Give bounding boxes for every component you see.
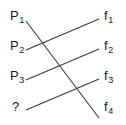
- node-sub-p1: 1: [19, 15, 24, 25]
- node-label-unknown: ?: [12, 100, 19, 113]
- node-label-p1: P1: [10, 9, 24, 22]
- node-label-f2: f2: [104, 39, 113, 52]
- node-sub-f3: 3: [108, 75, 113, 85]
- edge-p2-f1: [26, 19, 99, 50]
- node-label-f4: f4: [104, 100, 113, 113]
- node-base-p2: P: [10, 38, 19, 53]
- node-sub-p3: 3: [19, 75, 24, 85]
- node-label-f3: f3: [104, 69, 113, 82]
- node-sub-f1: 1: [108, 15, 113, 25]
- node-label-p3: P3: [10, 69, 24, 82]
- node-sub-f2: 2: [108, 45, 113, 55]
- edge-p1-f4: [26, 21, 99, 118]
- node-sub-p2: 2: [19, 45, 24, 55]
- node-sub-f4: 4: [108, 106, 113, 116]
- node-label-f1: f1: [104, 9, 113, 22]
- node-base-unknown: ?: [12, 99, 19, 114]
- node-base-p3: P: [10, 68, 19, 83]
- node-label-p2: P2: [10, 39, 24, 52]
- node-base-p1: P: [10, 8, 19, 23]
- edge-unknown-f3: [26, 79, 99, 110]
- edge-p3-f2: [26, 49, 99, 80]
- diagram-canvas: P1 P2 P3 ? f1 f2 f3 f4: [0, 0, 126, 125]
